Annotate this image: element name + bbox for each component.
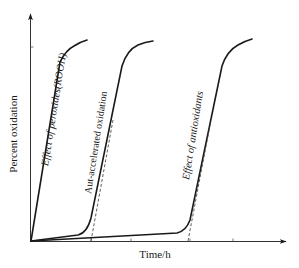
x-axis-label: Time/h xyxy=(139,248,171,260)
label-autoxidation: Aut-accelerated oxidation xyxy=(82,90,109,194)
label-peroxides: Effect of peroxides(ROOH) xyxy=(39,52,69,168)
oxidation-chart: Percent oxidation Time/h Effect of perox… xyxy=(0,0,299,268)
y-axis-label: Percent oxidation xyxy=(7,95,19,173)
